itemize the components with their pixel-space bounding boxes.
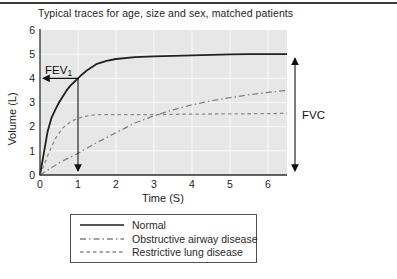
y-tick-label: 6 bbox=[29, 24, 35, 36]
y-tick-label: 1 bbox=[29, 145, 35, 157]
y-tick-label: 2 bbox=[29, 120, 35, 132]
legend-line-sample bbox=[79, 219, 125, 231]
y-tick-label: 0 bbox=[29, 169, 35, 181]
y-tick-label: 3 bbox=[29, 96, 35, 108]
fvc-label: FVC bbox=[302, 109, 325, 121]
x-tick-label: 6 bbox=[265, 178, 271, 190]
x-tick-label: 4 bbox=[189, 178, 195, 190]
legend-line-sample bbox=[79, 246, 125, 258]
legend-item: Restrictive lung disease bbox=[79, 245, 256, 259]
x-tick-label: 5 bbox=[227, 178, 233, 190]
legend-label: Normal bbox=[132, 219, 166, 231]
x-tick-label: 2 bbox=[113, 178, 119, 190]
legend-line-sample bbox=[79, 233, 125, 245]
legend-item: Obstructive airway disease bbox=[79, 232, 256, 246]
legend-label: Restrictive lung disease bbox=[132, 246, 243, 258]
legend-item: Normal bbox=[79, 218, 256, 232]
x-tick-label: 0 bbox=[37, 178, 43, 190]
y-tick-label: 5 bbox=[29, 48, 35, 60]
chart-canvas: 01234560123456FEV1FVC bbox=[0, 0, 397, 212]
y-tick-label: 4 bbox=[29, 72, 35, 84]
x-tick-label: 3 bbox=[151, 178, 157, 190]
x-tick-label: 1 bbox=[75, 178, 81, 190]
legend-box: NormalObstructive airway diseaseRestrict… bbox=[70, 214, 257, 263]
legend-label: Obstructive airway disease bbox=[132, 233, 257, 245]
y-axis-title: Volume (L) bbox=[6, 69, 20, 169]
spirometry-figure: Typical traces for age, size and sex, ma… bbox=[0, 0, 397, 279]
x-axis-title: Time (S) bbox=[103, 192, 223, 204]
